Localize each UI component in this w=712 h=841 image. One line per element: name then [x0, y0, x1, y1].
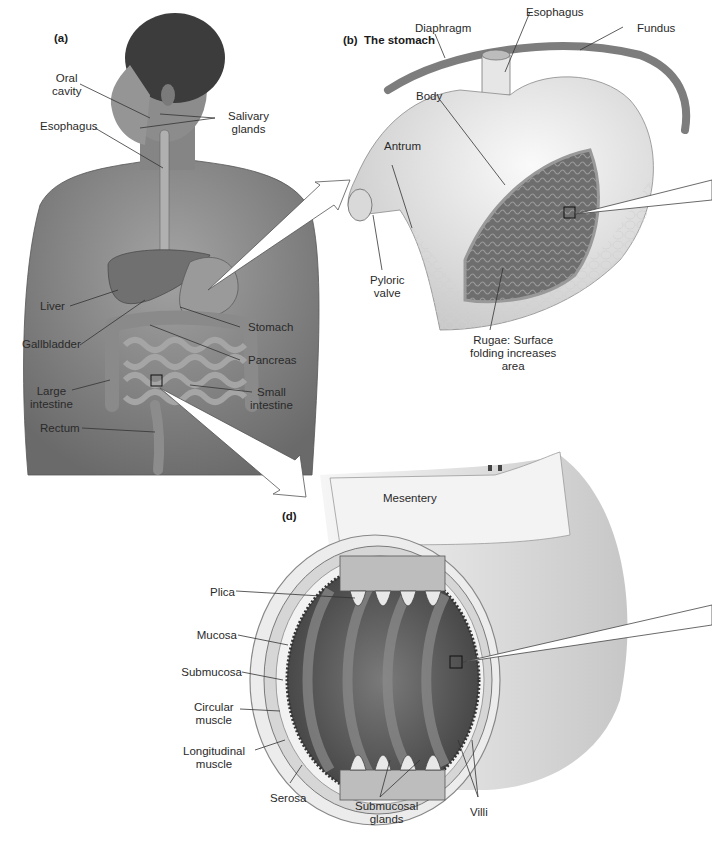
mesentery-vessel-a — [488, 465, 492, 471]
label-circular-muscle: Circular muscle — [194, 701, 234, 727]
label-mucosa: Mucosa — [193, 629, 237, 642]
label-fundus: Fundus — [637, 22, 675, 35]
label-rugae-line3: area — [470, 360, 556, 373]
label-rectum: Rectum — [40, 422, 80, 435]
label-circular-line2: muscle — [194, 714, 234, 727]
rectum-organ — [155, 405, 159, 470]
intestine-illustration — [250, 452, 712, 825]
mesentery-sheet — [330, 452, 570, 545]
label-pyloric-line1: Pyloric — [370, 274, 405, 287]
label-circular-line1: Circular — [194, 701, 234, 714]
label-pyloric-valve: Pyloric valve — [370, 274, 405, 300]
label-small-intestine-line1: Small — [250, 386, 293, 399]
panel-b-title: The stomach — [364, 34, 435, 46]
label-rugae-line1: Rugae: Surface — [470, 334, 556, 347]
label-rugae: Rugae: Surface folding increases area — [470, 334, 556, 373]
label-pancreas: Pancreas — [248, 354, 297, 367]
mesentery-vessel-b — [498, 465, 502, 471]
illustration-layer — [0, 0, 712, 841]
label-longitudinal-line2: muscle — [183, 758, 245, 771]
label-submucosal-glands: Submucosal glands — [355, 800, 418, 826]
label-liver: Liver — [40, 300, 65, 313]
label-large-intestine-line1: Large — [30, 385, 73, 398]
label-stomach: Stomach — [248, 321, 293, 334]
pyloric-opening — [348, 189, 372, 221]
label-submucosa: Submucosa — [180, 666, 242, 679]
label-salivary-line2: glands — [228, 123, 269, 136]
cut-block-top — [340, 556, 445, 591]
label-antrum: Antrum — [384, 140, 421, 153]
label-longitudinal-muscle: Longitudinal muscle — [183, 745, 245, 771]
label-rugae-line2: folding increases — [470, 347, 556, 360]
panel-d-tag: (d) — [282, 510, 297, 522]
label-large-intestine-line2: intestine — [30, 398, 73, 411]
label-large-intestine: Large intestine — [30, 385, 73, 411]
panel-b-letter: (b) — [343, 34, 358, 46]
panel-b-tag: (b) The stomach — [343, 34, 435, 46]
esophagus-opening — [482, 50, 510, 60]
label-esophagus: Esophagus — [40, 120, 98, 133]
label-longitudinal-line1: Longitudinal — [183, 745, 245, 758]
digestive-system-figure: (a) (b) The stomach (d) Oral cavity Esop… — [0, 0, 712, 841]
label-pyloric-line2: valve — [370, 287, 405, 300]
label-salivary-glands: Salivary glands — [228, 110, 269, 136]
label-salivary-line1: Salivary — [228, 110, 269, 123]
ear — [161, 84, 175, 106]
label-submucosal-line1: Submucosal — [355, 800, 418, 813]
label-gallbladder: Gallbladder — [22, 338, 81, 351]
label-oral-cavity: Oral cavity — [52, 72, 81, 98]
stomach-esophagus — [482, 55, 510, 95]
label-small-intestine-line2: intestine — [250, 399, 293, 412]
label-submucosal-line2: glands — [355, 813, 418, 826]
label-body: Body — [416, 90, 442, 103]
label-mesentery: Mesentery — [383, 492, 437, 505]
label-diaphragm: Diaphragm — [415, 22, 471, 35]
label-serosa: Serosa — [270, 792, 306, 805]
panel-a-tag: (a) — [54, 32, 68, 44]
label-small-intestine: Small intestine — [250, 386, 293, 412]
label-oral-cavity-line1: Oral — [52, 72, 81, 85]
label-stomach-esophagus: Esophagus — [526, 6, 584, 19]
label-oral-cavity-line2: cavity — [52, 85, 81, 98]
label-plica: Plica — [205, 586, 235, 599]
label-villi: Villi — [470, 806, 488, 819]
